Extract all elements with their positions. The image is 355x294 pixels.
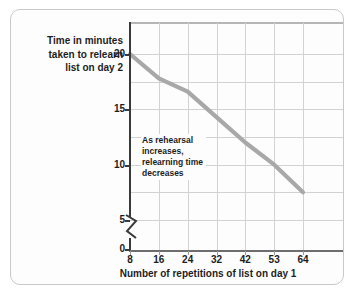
gridline-horizontal-minor xyxy=(130,192,344,193)
x-axis-line xyxy=(129,250,344,252)
trend-note-line-2: increases, xyxy=(142,146,203,157)
y-axis-tick-label: 10 xyxy=(99,160,125,170)
y-axis-break-icon xyxy=(124,214,140,240)
trend-note-annotation: As rehearsal increases, relearning time … xyxy=(141,134,206,180)
x-axis-tick-label: 16 xyxy=(145,254,173,265)
plot-wrapper: 05101520 8162432425364 As rehearsal incr… xyxy=(11,10,344,285)
y-axis-tick-mark xyxy=(125,109,130,111)
x-axis-tick-label: 53 xyxy=(260,254,288,265)
gridline-horizontal xyxy=(130,220,344,221)
gridline-horizontal-minor xyxy=(130,82,344,83)
y-axis-tick-mark xyxy=(125,220,130,222)
y-axis-tick-label: 0 xyxy=(99,244,125,254)
x-axis-title: Number of repetitions of list on day 1 xyxy=(71,268,344,279)
y-axis-tick-mark xyxy=(125,54,130,56)
x-axis-tick-label: 32 xyxy=(203,254,231,265)
y-axis-tick-mark xyxy=(125,165,130,167)
x-axis-tick-label: 64 xyxy=(289,254,317,265)
y-axis-tick-label: 20 xyxy=(99,49,125,59)
x-axis-tick-mark xyxy=(245,251,246,255)
x-axis-tick-mark xyxy=(274,251,275,255)
x-axis-tick-mark xyxy=(217,251,218,255)
trend-note-line-1: As rehearsal xyxy=(142,135,203,146)
x-axis-tick-label: 8 xyxy=(116,254,144,265)
figure-card: Time in minutes taken to relearn list on… xyxy=(10,9,344,285)
y-axis-tick-labels: 05101520 xyxy=(95,10,125,285)
y-axis-tick-label: 5 xyxy=(99,215,125,225)
x-axis-tick-label: 42 xyxy=(231,254,259,265)
x-axis-tick-mark xyxy=(188,251,189,255)
trend-note-line-4: decreases xyxy=(142,168,203,179)
x-axis-tick-mark xyxy=(159,251,160,255)
y-axis-line xyxy=(129,22,131,217)
trend-note-line-3: relearning time xyxy=(142,157,203,168)
x-axis-tick-label: 24 xyxy=(174,254,202,265)
x-axis-tick-mark xyxy=(303,251,304,255)
gridline-horizontal xyxy=(130,109,344,110)
x-axis-tick-mark xyxy=(130,251,131,255)
y-axis-tick-label: 15 xyxy=(99,104,125,114)
gridline-horizontal xyxy=(130,54,344,55)
